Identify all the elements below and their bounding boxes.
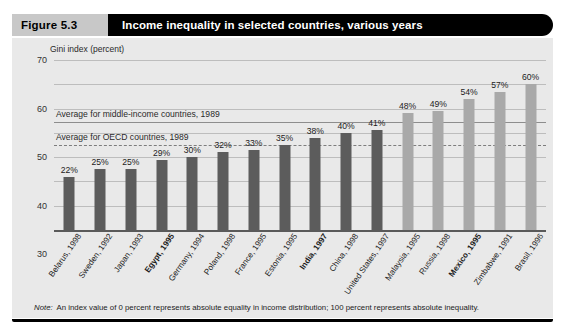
bar-slot: 25% bbox=[116, 60, 147, 230]
y-axis-title: Gini index (percent) bbox=[50, 44, 124, 54]
bar[interactable] bbox=[218, 152, 229, 230]
y-axis-tick-label: 70 bbox=[37, 55, 47, 65]
bar-slot: 35% bbox=[269, 60, 300, 230]
x-axis-category-label: China, 1998 bbox=[328, 232, 361, 273]
y-axis-tick-label: 30 bbox=[37, 249, 47, 259]
plot-area: 010203040506070 Average for middle-incom… bbox=[54, 60, 546, 230]
x-axis-category-label: France, 1995 bbox=[233, 232, 268, 277]
figure-header: Figure 5.3 Income inequality in selected… bbox=[12, 14, 553, 36]
bar-slot: 38% bbox=[300, 60, 331, 230]
bar-slot: 57% bbox=[485, 60, 516, 230]
bar-value-label: 48% bbox=[399, 101, 416, 111]
bar[interactable] bbox=[310, 138, 321, 230]
x-axis-category-label: Brasil, 1996 bbox=[513, 232, 545, 273]
bar[interactable] bbox=[248, 150, 259, 230]
x-axis-category-label: Russia, 1998 bbox=[418, 232, 453, 276]
bar[interactable] bbox=[187, 157, 198, 230]
bar-value-label: 29% bbox=[153, 148, 170, 158]
x-axis-category-label: Egypt, 1995 bbox=[143, 232, 176, 274]
bar[interactable] bbox=[371, 130, 382, 230]
bars-layer: 22%25%25%29%30%32%33%35%38%40%41%48%49%5… bbox=[54, 60, 546, 230]
x-axis-category-label: India, 1997 bbox=[298, 232, 329, 271]
bar-value-label: 30% bbox=[184, 145, 201, 155]
figure-title-bar: Income inequality in selected countries,… bbox=[108, 14, 553, 36]
y-axis-tick-label: 50 bbox=[37, 152, 47, 162]
figure-container: Figure 5.3 Income inequality in selected… bbox=[0, 0, 565, 334]
bar-value-label: 35% bbox=[276, 133, 293, 143]
x-axis-category-label: Sweden, 1992 bbox=[77, 232, 114, 280]
bar-slot: 49% bbox=[423, 60, 454, 230]
bar[interactable] bbox=[433, 111, 444, 230]
note-body: An index value of 0 percent represents a… bbox=[57, 303, 479, 312]
bar-slot: 48% bbox=[392, 60, 423, 230]
x-axis-labels: Belarus, 1998Sweden, 1992Japan, 1993Egyp… bbox=[54, 232, 546, 294]
bar-slot: 54% bbox=[454, 60, 485, 230]
bar-value-label: 40% bbox=[338, 121, 355, 131]
bar-value-label: 33% bbox=[245, 138, 262, 148]
x-axis-category-label: Estonia, 1995 bbox=[263, 232, 299, 278]
bar[interactable] bbox=[464, 99, 475, 230]
bar-value-label: 25% bbox=[92, 157, 109, 167]
bar-slot: 22% bbox=[54, 60, 85, 230]
bar[interactable] bbox=[402, 113, 413, 230]
bar-value-label: 22% bbox=[61, 165, 78, 175]
bar[interactable] bbox=[156, 160, 167, 230]
bar[interactable] bbox=[494, 92, 505, 230]
y-axis-tick-label: 60 bbox=[37, 104, 47, 114]
bar-value-label: 41% bbox=[368, 118, 385, 128]
bar[interactable] bbox=[95, 169, 106, 230]
bar[interactable] bbox=[341, 133, 352, 230]
figure-number-label: Figure 5.3 bbox=[21, 19, 77, 31]
y-axis-tick-label: 40 bbox=[37, 201, 47, 211]
bar-slot: 25% bbox=[85, 60, 116, 230]
bar-slot: 40% bbox=[331, 60, 362, 230]
bar[interactable] bbox=[279, 145, 290, 230]
x-axis-category-label: Poland, 1998 bbox=[202, 232, 237, 277]
bar-slot: 41% bbox=[362, 60, 393, 230]
note-lead: Note: bbox=[34, 303, 53, 312]
bar-value-label: 25% bbox=[122, 157, 139, 167]
bar-value-label: 54% bbox=[461, 87, 478, 97]
bar-slot: 32% bbox=[208, 60, 239, 230]
x-axis-category-label: Japan, 1993 bbox=[112, 232, 145, 274]
note-text: Note: An index value of 0 percent repres… bbox=[34, 303, 479, 312]
bar-slot: 30% bbox=[177, 60, 208, 230]
bar-value-label: 57% bbox=[491, 80, 508, 90]
bar[interactable] bbox=[125, 169, 136, 230]
figure-note: Note: An index value of 0 percent repres… bbox=[12, 296, 553, 318]
bar-slot: 60% bbox=[515, 60, 546, 230]
bar-value-label: 60% bbox=[522, 72, 539, 82]
bar[interactable] bbox=[525, 84, 536, 230]
bottom-rule bbox=[12, 319, 553, 322]
figure-title: Income inequality in selected countries,… bbox=[122, 19, 423, 31]
bar-slot: 29% bbox=[146, 60, 177, 230]
bar-slot: 33% bbox=[239, 60, 270, 230]
bar[interactable] bbox=[64, 177, 75, 230]
bar-value-label: 38% bbox=[307, 126, 324, 136]
bar-value-label: 32% bbox=[215, 140, 232, 150]
figure-number-badge: Figure 5.3 bbox=[12, 14, 108, 36]
chart-panel: Gini index (percent) 010203040506070 Ave… bbox=[12, 38, 553, 296]
bar-value-label: 49% bbox=[430, 99, 447, 109]
